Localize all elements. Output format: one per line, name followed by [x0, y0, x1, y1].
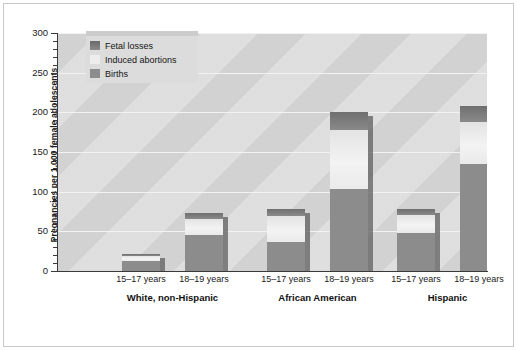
y-tick-90	[53, 200, 57, 201]
y-tick-110	[53, 184, 57, 185]
y-tick-130	[53, 168, 57, 169]
y-tick-label-100: 100	[4, 186, 48, 197]
segment-births	[330, 189, 368, 271]
y-tick-230	[53, 89, 57, 90]
bar-hispanic-18-19-[interactable]	[460, 106, 487, 271]
x-age-label-1: 18–19 years	[174, 274, 234, 284]
segment-fetal-losses	[397, 209, 435, 215]
bar-shadow	[368, 116, 373, 271]
chart-figure: Pregnancies per 1,000 female adolescents…	[0, 0, 517, 350]
y-tick-label-250: 250	[4, 67, 48, 78]
y-tick-300	[51, 33, 57, 34]
y-tick-240	[53, 81, 57, 82]
gridline-200	[57, 112, 487, 113]
bar-hispanic-15-17-[interactable]	[397, 209, 435, 271]
segment-births	[460, 164, 487, 271]
segment-fetal-losses	[330, 112, 368, 129]
y-tick-label-200: 200	[4, 106, 48, 117]
y-tick-180	[53, 128, 57, 129]
segment-births	[185, 235, 223, 271]
segment-fetal-losses	[460, 106, 487, 122]
y-tick-190	[53, 120, 57, 121]
induced-abortions-swatch	[90, 55, 100, 64]
x-axis-line	[57, 271, 488, 272]
y-tick-290	[53, 41, 57, 42]
x-axis-labels: 15–17 years18–19 years15–17 years18–19 y…	[57, 274, 488, 314]
legend-label-fetal-losses: Fetal losses	[105, 41, 153, 51]
segment-fetal-losses	[185, 213, 223, 219]
bar-shadow	[160, 258, 165, 271]
y-axis-tick-labels: 050100150200250300	[0, 0, 48, 350]
segment-births	[122, 261, 160, 271]
births-swatch	[90, 69, 100, 78]
bar-white-non-hispanic-18-19-[interactable]	[185, 213, 223, 271]
segment-induced-abortions	[397, 215, 435, 232]
x-group-label-2: Hispanic	[378, 292, 517, 303]
legend-item-induced-abortions: Induced abortions	[90, 53, 194, 66]
segment-induced-abortions	[267, 216, 305, 241]
segment-induced-abortions	[330, 130, 368, 190]
y-tick-210	[53, 104, 57, 105]
segment-induced-abortions	[460, 122, 487, 164]
legend-item-fetal-losses: Fetal losses	[90, 39, 194, 52]
y-tick-30	[53, 247, 57, 248]
y-tick-40	[53, 239, 57, 240]
chart-legend: Fetal losses Induced abortions Births	[86, 31, 198, 83]
y-tick-label-0: 0	[4, 265, 48, 276]
y-tick-260	[53, 65, 57, 66]
x-group-label-0: White, non-Hispanic	[103, 292, 243, 303]
y-tick-280	[53, 49, 57, 50]
y-tick-10	[53, 263, 57, 264]
bar-white-non-hispanic-15-17-[interactable]	[122, 254, 160, 271]
y-tick-150	[51, 152, 57, 153]
y-tick-20	[53, 255, 57, 256]
segment-induced-abortions	[185, 219, 223, 236]
y-tick-120	[53, 176, 57, 177]
y-tick-0	[51, 271, 57, 272]
y-axis-line	[57, 33, 58, 272]
y-tick-100	[51, 192, 57, 193]
gridline-150	[57, 152, 487, 153]
segment-fetal-losses	[122, 254, 160, 256]
y-tick-label-50: 50	[4, 225, 48, 236]
legend-item-births: Births	[90, 67, 194, 80]
y-tick-250	[51, 73, 57, 74]
x-age-label-3: 18–19 years	[319, 274, 379, 284]
bar-shadow	[223, 217, 228, 271]
y-tick-140	[53, 160, 57, 161]
legend-label-induced-abortions: Induced abortions	[105, 55, 177, 65]
y-tick-170	[53, 136, 57, 137]
bar-african-american-18-19-[interactable]	[330, 112, 368, 271]
y-tick-270	[53, 57, 57, 58]
x-age-label-0: 15–17 years	[111, 274, 171, 284]
segment-births	[397, 233, 435, 271]
legend-label-births: Births	[105, 69, 128, 79]
bar-shadow	[435, 213, 440, 271]
y-tick-label-300: 300	[4, 27, 48, 38]
y-tick-160	[53, 144, 57, 145]
x-age-label-5: 18–19 years	[449, 274, 509, 284]
y-tick-220	[53, 96, 57, 97]
y-tick-label-150: 150	[4, 146, 48, 157]
x-age-label-4: 15–17 years	[386, 274, 446, 284]
segment-births	[267, 242, 305, 271]
bar-african-american-15-17-[interactable]	[267, 209, 305, 271]
gridline-100	[57, 192, 487, 193]
fetal-losses-swatch	[90, 41, 100, 50]
segment-induced-abortions	[122, 256, 160, 262]
x-age-label-2: 15–17 years	[256, 274, 316, 284]
segment-fetal-losses	[267, 209, 305, 216]
x-group-label-1: African American	[248, 292, 388, 303]
bar-shadow	[305, 213, 310, 271]
y-tick-50	[51, 231, 57, 232]
y-tick-200	[51, 112, 57, 113]
y-tick-80	[53, 208, 57, 209]
y-tick-60	[53, 223, 57, 224]
y-tick-70	[53, 215, 57, 216]
